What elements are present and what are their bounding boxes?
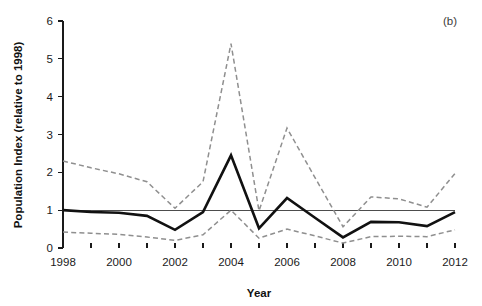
y-tick-label: 1 (47, 204, 53, 216)
y-tick-label: 0 (47, 242, 53, 254)
y-tick-label: 4 (47, 91, 54, 103)
x-tick-label: 2008 (330, 256, 356, 268)
y-axis-ticks (58, 21, 63, 248)
y-tick-label: 2 (47, 166, 53, 178)
x-tick-label: 2000 (106, 256, 132, 268)
x-tick-label: 2010 (386, 256, 412, 268)
y-axis-title: Population Index (relative to 1998) (12, 42, 24, 229)
figure-panel: 0123456 19982000200220042006200820102012… (0, 0, 482, 306)
panel-label: (b) (443, 15, 457, 27)
x-tick-label: 2002 (162, 256, 188, 268)
x-tick-label: 1998 (50, 256, 76, 268)
x-tick-label: 2004 (218, 256, 244, 268)
y-tick-label: 3 (47, 129, 53, 141)
x-tick-label: 2012 (442, 256, 468, 268)
y-axis-tick-labels: 0123456 (47, 15, 54, 254)
y-tick-label: 6 (47, 15, 53, 27)
series-line-0 (63, 155, 455, 237)
line-chart: 0123456 19982000200220042006200820102012… (0, 0, 482, 306)
x-axis-ticks (63, 243, 455, 248)
y-tick-label: 5 (47, 53, 53, 65)
x-axis-tick-labels: 19982000200220042006200820102012 (50, 256, 468, 268)
x-tick-label: 2006 (274, 256, 300, 268)
series-line-1 (63, 44, 455, 227)
series-group (63, 44, 455, 243)
x-axis-title: Year (247, 287, 272, 299)
